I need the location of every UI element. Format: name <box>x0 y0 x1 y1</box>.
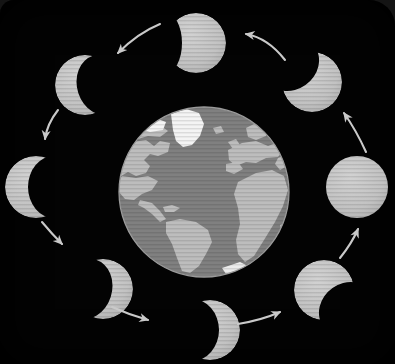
moon-phase-diagram: Phases of the Moon Earth counterclockwis… <box>0 0 395 364</box>
earth-scanline-texture <box>119 107 289 277</box>
arrow-top-right-to-top-icon <box>246 34 285 60</box>
arrow-bottom-right-to-right-icon <box>340 229 358 258</box>
moon-top <box>166 13 226 73</box>
diagram-canvas <box>0 0 395 364</box>
arrow-bottom-to-bottom-right-icon <box>238 312 280 324</box>
moon-right-full <box>326 156 388 218</box>
moon-top-left <box>55 55 115 115</box>
moon-top-right <box>282 52 342 112</box>
moon-bottom-right <box>294 260 354 320</box>
moon-bottom <box>180 300 240 360</box>
moon-left <box>5 156 67 218</box>
earth-globe <box>118 107 289 277</box>
arrow-top-to-top-left-icon <box>118 24 160 53</box>
arrow-top-left-to-left-icon <box>45 110 58 139</box>
moon-bottom-left <box>73 259 133 319</box>
arrow-right-to-top-right-icon <box>344 113 366 152</box>
arrow-left-to-bottom-left-icon <box>42 222 62 244</box>
